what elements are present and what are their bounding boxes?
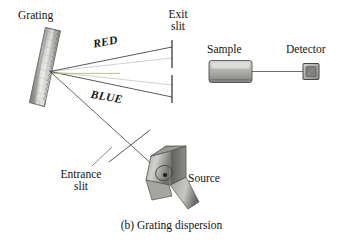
- entrance-slit-label-line2: slit: [50, 180, 112, 192]
- exit-slit-label: Exit slit: [158, 8, 198, 33]
- diagram-canvas: [0, 0, 343, 244]
- grating-icon: [30, 28, 61, 107]
- detector-label: Detector: [286, 43, 326, 55]
- entrance-slit-label: Entrance slit: [50, 168, 112, 193]
- red-ray: [50, 47, 172, 72]
- detector-icon: [303, 64, 319, 80]
- sample-icon: [209, 61, 252, 83]
- exit-slit-label-line2: slit: [158, 20, 198, 32]
- exit-slit-label-line1: Exit: [158, 8, 198, 20]
- source-label: Source: [188, 172, 220, 184]
- sample-label: Sample: [207, 43, 242, 55]
- entrance-slit-leader: [92, 147, 112, 166]
- grating-dispersion-figure: Grating Exit slit Sample Detector Source…: [0, 0, 343, 244]
- entrance-slit-label-line1: Entrance: [50, 168, 112, 180]
- figure-caption: (b) Grating dispersion: [0, 219, 343, 231]
- grating-label: Grating: [18, 9, 53, 21]
